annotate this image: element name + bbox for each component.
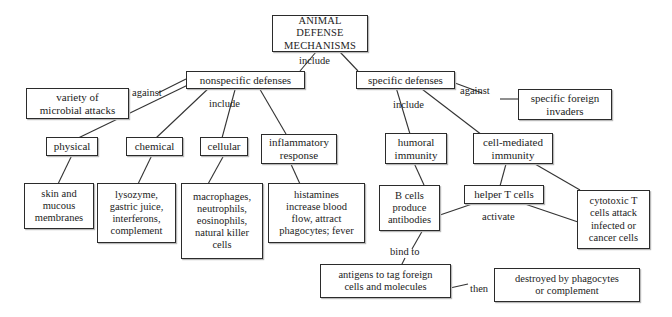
node-humoral-immunity[interactable]: humoral immunity: [385, 133, 447, 164]
histamines-line-1: histamines: [273, 189, 360, 201]
skin-line-3: membranes: [29, 212, 89, 224]
node-cellular[interactable]: cellular: [200, 137, 248, 156]
bcells-line-3: antibodies: [384, 214, 435, 226]
helper-label: helper T cells: [469, 188, 539, 201]
edge-nonspecific-chemical: [156, 86, 211, 138]
cytotoxic-line-3: infected or: [582, 220, 645, 232]
inflammatory-line-1: inflammatory: [266, 136, 332, 149]
cellmediated-line-2: immunity: [478, 149, 548, 162]
edge-nonspecific-microbial: [158, 79, 186, 93]
edge-antigens-then: [450, 284, 468, 288]
edge-nonspecific-inflammatory: [258, 86, 286, 134]
destroyed-line-1: destroyed by phagocytes: [499, 273, 635, 285]
histamines-line-4: phagocytes; fever: [273, 225, 360, 237]
node-antigens-to-tag-foreign-cells[interactable]: antigens to tag foreign cells and molecu…: [320, 264, 451, 298]
node-macrophages-neutrophils-eosinophils-natural-killer-cells[interactable]: macrophages, neutrophils, eosinophils, n…: [181, 183, 263, 259]
foreign-line-1: specific foreign: [523, 92, 607, 105]
node-histamines-increase-blood-flow[interactable]: histamines increase blood flow, attract …: [268, 183, 365, 243]
macrophages-line-3: eosinophils,: [186, 215, 258, 227]
root-line-1: ANIMAL DEFENSE: [277, 15, 363, 39]
edge-label-against-left: against: [132, 87, 162, 98]
chemical-label: chemical: [131, 140, 178, 153]
lysozyme-line-3: interferons,: [102, 213, 171, 225]
edge-label-include-nonspecific: include: [209, 98, 240, 109]
cellmediated-line-1: cell-mediated: [478, 136, 548, 149]
edge-nonspecific-cellular: [222, 86, 236, 138]
node-destroyed-by-phagocytes[interactable]: destroyed by phagocytes or complement: [494, 268, 640, 302]
bcells-line-1: B cells: [384, 190, 435, 202]
edge-inflammatory-histamines: [290, 162, 300, 184]
node-cytotoxic-t-cells[interactable]: cytotoxic T cells attack infected or can…: [577, 190, 650, 249]
edge-helper-cytotoxic: [522, 203, 578, 222]
edge-label-include-specific: include: [393, 99, 424, 110]
edge-label-activate: activate: [482, 211, 515, 222]
node-inflammatory-response[interactable]: inflammatory response: [261, 134, 337, 164]
edge-cellular-macrophages: [208, 155, 224, 184]
node-chemical[interactable]: chemical: [126, 137, 183, 156]
edge-label-bind-to: bind to: [390, 246, 419, 257]
node-specific-foreign-invaders[interactable]: specific foreign invaders: [518, 89, 612, 120]
specific-label: specific defenses: [361, 74, 450, 87]
macrophages-line-2: neutrophils,: [186, 203, 258, 215]
destroyed-line-2: or complement: [499, 285, 635, 297]
cellular-label: cellular: [205, 140, 243, 153]
nonspecific-label: nonspecific defenses: [191, 74, 300, 87]
physical-label: physical: [51, 140, 93, 153]
macrophages-line-1: macrophages,: [186, 191, 258, 203]
inflammatory-line-2: response: [266, 149, 332, 162]
skin-line-1: skin and: [29, 188, 89, 200]
node-specific-defenses[interactable]: specific defenses: [356, 71, 455, 89]
lysozyme-line-1: lysozyme,: [102, 189, 171, 201]
microbial-line-1: variety of: [31, 91, 124, 104]
edge-physical-skin: [58, 155, 72, 184]
humoral-line-1: humoral: [390, 136, 442, 149]
histamines-line-3: flow, attract: [273, 213, 360, 225]
antigens-line-2: cells and molecules: [325, 281, 446, 293]
root-line-2: MECHANISMS: [277, 40, 363, 52]
histamines-line-2: increase blood: [273, 201, 360, 213]
cytotoxic-line-2: cells attack: [582, 207, 645, 219]
edge-chemical-lysozyme: [138, 155, 152, 184]
edge-label-against-right: against: [460, 85, 490, 96]
bcells-line-2: produce: [384, 202, 435, 214]
node-variety-of-microbial-attacks[interactable]: variety of microbial attacks: [26, 88, 129, 119]
node-helper-t-cells[interactable]: helper T cells: [464, 185, 544, 204]
microbial-line-2: microbial attacks: [31, 104, 124, 117]
node-physical[interactable]: physical: [46, 137, 98, 156]
node-animal-defense-mechanisms[interactable]: ANIMAL DEFENSE MECHANISMS: [272, 15, 368, 52]
antigens-line-1: antigens to tag foreign: [325, 269, 446, 281]
edge-cellmediated-helper: [500, 164, 506, 186]
node-cell-mediated-immunity[interactable]: cell-mediated immunity: [473, 133, 553, 164]
humoral-line-2: immunity: [390, 149, 442, 162]
lysozyme-line-2: gastric juice,: [102, 201, 171, 213]
foreign-line-2: invaders: [523, 105, 607, 118]
concept-map: ANIMAL DEFENSE MECHANISMS include nonspe…: [0, 0, 672, 317]
edge-label-then: then: [470, 283, 488, 294]
skin-line-2: mucous: [29, 200, 89, 212]
edge-humoral-bcells: [414, 163, 424, 185]
macrophages-line-4: natural killer: [186, 227, 258, 239]
edge-root-specific: [340, 52, 358, 71]
node-b-cells-produce-antibodies[interactable]: B cells produce antibodies: [379, 185, 440, 231]
node-nonspecific-defenses[interactable]: nonspecific defenses: [186, 71, 305, 89]
edge-label-include-root: include: [299, 55, 330, 66]
macrophages-line-5: cells: [186, 239, 258, 251]
cytotoxic-line-4: cancer cells: [582, 232, 645, 244]
lysozyme-line-4: complement: [102, 225, 171, 237]
node-skin-and-mucous-membranes[interactable]: skin and mucous membranes: [24, 183, 94, 229]
node-lysozyme-gastric-juice-interferons-complement[interactable]: lysozyme, gastric juice, interferons, co…: [97, 183, 176, 243]
cytotoxic-line-1: cytotoxic T: [582, 195, 645, 207]
